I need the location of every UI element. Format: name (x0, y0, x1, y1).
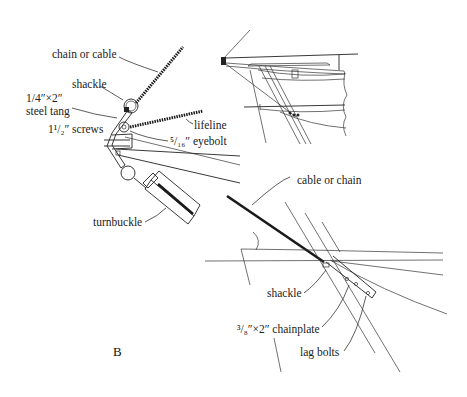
chain-cable-line (136, 47, 183, 103)
label-eyebolt: ⁵/₁₆″ eyebolt (170, 135, 228, 148)
leader-chain (119, 57, 158, 72)
turnbuckle-body (145, 180, 194, 224)
chainplate-line-b (265, 66, 306, 144)
panel-label: B (113, 344, 122, 359)
leader-shackle (304, 270, 326, 293)
angle-arc (253, 232, 258, 250)
sheer-strake (244, 105, 345, 107)
label-cable-or-chain: cable or chain (297, 174, 362, 186)
label-tang-size: 1/4″×2″ (26, 92, 63, 104)
break-line (343, 73, 347, 136)
leader-cable (252, 177, 290, 205)
leader-lifeline (186, 119, 193, 124)
turnbuckle-rod (158, 184, 193, 214)
rail-cap (226, 63, 345, 74)
leader-lag-bolts (344, 296, 366, 351)
label-shackle-right: shackle (267, 287, 301, 299)
steel-tang (107, 110, 132, 168)
lower-shackle (121, 166, 135, 180)
label-chain-or-cable: chain or cable (52, 48, 117, 60)
label-steel-tang: steel tang (26, 105, 70, 118)
label-lifeline: lifeline (194, 119, 227, 131)
label-chainplate: ³/₈″×2″ chainplate (237, 323, 320, 336)
label-turnbuckle: turnbuckle (93, 216, 142, 228)
masthead-fitting (221, 57, 226, 65)
shackle-pin (124, 107, 129, 112)
top-right-detail (221, 30, 358, 144)
sheer-line (258, 70, 345, 75)
label-screws: 1¹/₂″ screws (48, 123, 104, 135)
toerail (262, 78, 345, 80)
label-shackle: shackle (72, 78, 106, 90)
planking (260, 109, 345, 112)
chainplate-edge-3 (322, 222, 340, 252)
leader-chainplate (322, 285, 349, 327)
rail-strip (248, 63, 330, 66)
rail-bottom (118, 155, 240, 183)
rigging-diagram: chain or cable shackle 1/4″×2″ steel tan… (0, 0, 467, 397)
bolt-1 (289, 112, 292, 115)
bottom-right-detail: cable or chain shackle ³/₈″×2″ chainplat… (205, 174, 447, 372)
sheer-line (241, 249, 443, 253)
bolt-3 (297, 114, 300, 117)
rail-line (332, 261, 443, 275)
hull-lower-line (274, 338, 281, 372)
chainplate-line-c (270, 66, 311, 144)
left-detail: chain or cable shackle 1/4″×2″ steel tan… (26, 47, 240, 228)
turnbuckle-stud (134, 178, 146, 188)
lag-bolt-3 (366, 291, 369, 294)
leader-tang (72, 108, 117, 118)
deck-top-line (226, 54, 358, 58)
bolt-2 (293, 114, 296, 117)
lifeline-line (130, 111, 203, 127)
label-lag-bolts: lag bolts (300, 346, 340, 359)
stay-line (224, 30, 250, 58)
deck-line (205, 260, 443, 261)
leader-turnbuckle (145, 208, 166, 222)
hull-side (241, 249, 250, 285)
